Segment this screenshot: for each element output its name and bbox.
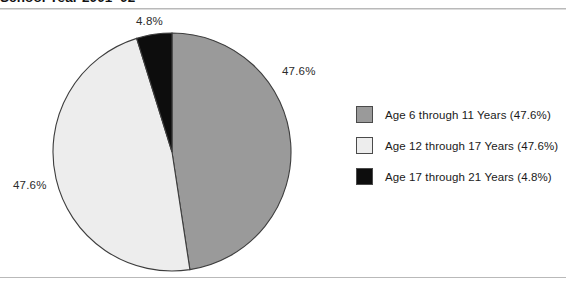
chart-title: School Year 2001–02 [0,0,360,5]
pie-callout-age-12-17: 47.6% [13,179,47,191]
pie-slice-age-6-11 [172,33,291,270]
bottom-divider-rule [0,277,566,278]
pie-chart-figure: School Year 2001–02 4.8% 47.6% 47.6% Age… [0,0,566,287]
chart-legend: Age 6 through 11 Years (47.6%) Age 12 th… [356,106,562,185]
legend-label-age-6-11: Age 6 through 11 Years (47.6%) [385,109,551,121]
pie-callout-age-6-11: 47.6% [282,65,316,77]
legend-swatch-age-12-17 [356,137,373,154]
legend-item-age-12-17: Age 12 through 17 Years (47.6%) [356,137,562,154]
pie-svg [52,32,292,272]
legend-swatch-age-17-21 [356,168,373,185]
legend-label-age-12-17: Age 12 through 17 Years (47.6%) [385,140,558,152]
top-divider-rule-shadow [0,9,566,10]
legend-swatch-age-6-11 [356,106,373,123]
legend-label-age-17-21: Age 17 through 21 Years (4.8%) [385,171,552,183]
pie-callout-age-17-21: 4.8% [136,15,163,27]
pie-graphic [52,32,292,272]
legend-item-age-6-11: Age 6 through 11 Years (47.6%) [356,106,562,123]
legend-item-age-17-21: Age 17 through 21 Years (4.8%) [356,168,562,185]
